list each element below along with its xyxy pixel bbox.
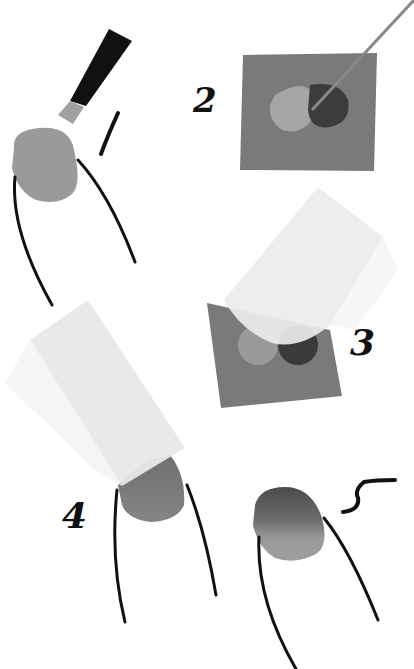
finger-outline-right [324, 518, 378, 620]
nail-5-gradient [253, 487, 325, 561]
finger-outline-right [187, 485, 216, 595]
step-number-4: 4 [62, 494, 87, 536]
step-number-2: 2 [192, 80, 217, 120]
step-4: 4 [5, 300, 216, 622]
nail-art-illustration: 2 3 4 [0, 0, 414, 669]
step-3: 3 [207, 187, 398, 408]
step-5 [253, 480, 395, 669]
step-number-1 [101, 113, 118, 154]
step-1 [12, 29, 135, 305]
step-number-3: 3 [350, 321, 375, 363]
polish-brush-icon [58, 29, 132, 124]
finger-outline-left [115, 490, 125, 622]
step-number-5 [343, 480, 395, 512]
nail-1 [12, 128, 78, 202]
step-2: 2 [192, 0, 414, 171]
finger-outline-right [78, 160, 135, 262]
